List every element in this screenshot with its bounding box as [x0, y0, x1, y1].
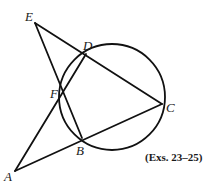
segment-EB	[35, 23, 82, 138]
point-label-C: C	[166, 100, 175, 115]
point-label-A: A	[3, 169, 12, 184]
point-label-E: E	[24, 9, 33, 24]
point-label-D: D	[82, 38, 93, 53]
segment-AC	[15, 104, 162, 171]
geometry-diagram: E D F C B A (Exs. 23–25)	[0, 0, 206, 185]
point-label-B: B	[76, 143, 84, 158]
point-label-F: F	[49, 86, 59, 101]
circle	[59, 44, 165, 150]
figure-caption: (Exs. 23–25)	[145, 151, 203, 164]
